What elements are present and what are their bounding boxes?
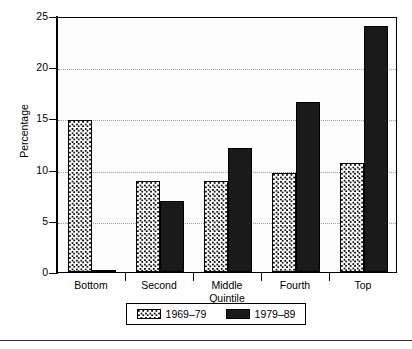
bar[interactable]	[228, 148, 252, 272]
chart-legend: 1969–791979–89	[126, 303, 306, 325]
bar[interactable]	[296, 102, 320, 272]
y-axis-tick	[49, 273, 56, 274]
footer-divider	[0, 340, 412, 341]
x-axis-tick-label: Top	[329, 280, 397, 292]
y-axis-tick	[49, 171, 56, 172]
bar-group	[330, 18, 397, 272]
bar-chart-figure: 0510152025 Percentage BottomSecondMiddle…	[0, 0, 412, 349]
bar[interactable]	[160, 201, 184, 272]
bar[interactable]	[272, 173, 296, 272]
y-axis-tick	[49, 119, 56, 120]
bars-layer	[58, 18, 396, 272]
x-axis-tick-label: Fourth	[261, 280, 329, 292]
legend-label: 1969–79	[166, 309, 207, 320]
x-axis-tick-label: Middle	[193, 280, 261, 292]
y-axis-tick-label: 25	[26, 11, 48, 22]
legend-swatch-icon	[226, 309, 250, 319]
y-axis-tick	[49, 17, 56, 18]
bar[interactable]	[340, 163, 364, 272]
bar-group	[58, 18, 126, 272]
y-axis-tick	[49, 68, 56, 69]
bar[interactable]	[92, 270, 116, 272]
bar-group	[194, 18, 262, 272]
y-axis-title: Percentage	[18, 83, 30, 179]
y-axis-line	[56, 16, 58, 274]
x-axis-tick-label: Second	[125, 280, 193, 292]
bar-group	[126, 18, 194, 272]
legend-entry[interactable]: 1979–89	[226, 309, 296, 320]
plot-area	[57, 17, 397, 273]
bar-group	[262, 18, 330, 272]
legend-label: 1979–89	[255, 309, 296, 320]
y-axis-tick-label: 20	[26, 62, 48, 73]
y-axis-tick	[49, 222, 56, 223]
x-axis-tick-label: Bottom	[57, 280, 125, 292]
y-axis-tick-label: 5	[26, 216, 48, 227]
legend-entry[interactable]: 1969–79	[137, 309, 207, 320]
bar[interactable]	[204, 181, 228, 272]
bar[interactable]	[68, 120, 92, 272]
bar[interactable]	[364, 26, 388, 272]
bar[interactable]	[136, 181, 160, 272]
y-axis-tick-label: 0	[26, 267, 48, 278]
legend-swatch-icon	[137, 309, 161, 319]
